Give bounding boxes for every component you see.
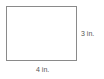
width-label: 4 in. — [36, 66, 49, 73]
height-label: 3 in. — [81, 30, 94, 37]
rectangle-shape — [6, 6, 77, 61]
